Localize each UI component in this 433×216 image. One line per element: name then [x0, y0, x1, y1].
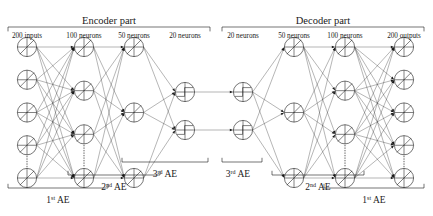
layer-labels-group: 200 inputs100 neurons50 neurons20 neuron… — [12, 32, 421, 40]
connection-edge — [37, 113, 75, 178]
connection-edge — [355, 113, 394, 135]
connection-edge — [94, 47, 125, 112]
part-brackets-group: Encoder partDecoder part — [8, 15, 424, 32]
connection-edge — [94, 91, 124, 113]
part-title-decoder: Decoder part — [296, 15, 351, 26]
bracket-encoder-3rd-ae — [122, 158, 208, 162]
part-bracket-encoder — [8, 27, 210, 31]
connection-edge — [144, 47, 176, 92]
connection-edge — [355, 47, 395, 145]
connection-edge — [144, 92, 176, 178]
connection-edge — [37, 47, 74, 79]
neuron-node — [17, 103, 36, 122]
connection-edge — [355, 146, 394, 178]
connection-edge — [304, 47, 336, 90]
connection-edge — [94, 113, 124, 135]
label-encoder-1st-ae: 1st AE — [46, 195, 69, 205]
neuron-node — [394, 136, 413, 155]
layer-label-R2: 50 neurons — [278, 32, 310, 40]
edge-arrowhead — [281, 109, 284, 112]
connection-edge — [355, 80, 395, 178]
neuron-node — [284, 37, 303, 56]
connection-edge — [253, 47, 285, 92]
connection-edge — [355, 134, 394, 177]
connection-edge — [144, 92, 175, 112]
connection-edge — [253, 47, 285, 130]
connection-edge — [355, 47, 394, 90]
label-encoder-3rd-ae: 3rd AE — [153, 169, 177, 179]
connection-edge — [355, 47, 395, 112]
connection-edge — [304, 135, 336, 178]
edge-arrowhead — [172, 88, 175, 91]
neuron-node — [394, 70, 413, 89]
connection-edge — [94, 113, 125, 178]
edge-arrowhead — [230, 91, 233, 94]
connection-edge — [37, 47, 74, 90]
autoencoder-diagram: Encoder partDecoder part 200 inputs100 n… — [0, 0, 433, 216]
neuron-node — [17, 168, 36, 187]
neuron-node — [17, 136, 36, 155]
connection-edge — [37, 47, 75, 112]
neuron-node — [394, 103, 413, 122]
neuron-node — [335, 125, 354, 144]
diagram-canvas: Encoder partDecoder part 200 inputs100 n… — [0, 0, 433, 216]
neuron-node — [394, 168, 413, 187]
connection-edge — [355, 47, 394, 79]
connection-edge — [355, 47, 395, 134]
connection-edge — [94, 91, 125, 178]
neuron-node — [233, 120, 252, 139]
label-decoder-3rd-ae: 3rd AE — [226, 169, 250, 179]
connection-edge — [355, 113, 395, 178]
connection-edge — [144, 113, 175, 130]
part-bracket-decoder — [222, 27, 424, 31]
layer-label-R1: 20 neurons — [227, 32, 259, 40]
connection-edge — [355, 134, 394, 145]
neuron-node — [124, 168, 143, 187]
neuron-node — [74, 81, 93, 100]
layer-label-L1: 200 inputs — [12, 32, 42, 40]
layer-label-L4: 20 neurons — [169, 32, 201, 40]
label-decoder-2nd-ae: 2nd AE — [305, 182, 330, 192]
neuron-node — [335, 37, 354, 56]
neuron-node — [17, 37, 36, 56]
connection-edge — [253, 130, 285, 178]
connection-edges-group — [37, 46, 395, 180]
layer-label-L2: 100 neurons — [66, 32, 102, 40]
neuron-node — [284, 103, 303, 122]
connection-edge — [304, 47, 336, 112]
connection-edge — [37, 135, 74, 178]
connection-edge — [37, 47, 75, 145]
connection-edge — [37, 91, 75, 145]
neuron-node — [284, 168, 303, 187]
neuron-node — [17, 70, 36, 89]
connection-edge — [94, 47, 125, 90]
connection-edge — [37, 134, 74, 145]
edge-arrowhead — [332, 46, 335, 49]
edge-arrowhead — [332, 177, 335, 180]
neuron-node — [74, 125, 93, 144]
connection-edge — [355, 80, 394, 91]
connection-edge — [37, 145, 74, 177]
edge-arrowhead — [230, 129, 233, 132]
ae-brackets-group: 1st AE2nd AE3rd AE3rd AE2nd AE1st AE — [8, 158, 424, 205]
edge-arrowhead — [332, 87, 335, 90]
part-title-encoder: Encoder part — [82, 15, 136, 26]
neuron-node — [124, 37, 143, 56]
connection-edge — [304, 113, 335, 135]
connection-edge — [253, 92, 285, 178]
neuron-node — [233, 82, 252, 101]
connection-edge — [94, 47, 125, 134]
connection-edge — [144, 47, 176, 130]
neuron-node — [74, 168, 93, 187]
edge-arrowhead — [332, 135, 335, 138]
connection-edge — [304, 91, 335, 113]
connection-edge — [355, 80, 395, 134]
neuron-node — [394, 37, 413, 56]
connection-edge — [355, 91, 394, 113]
connection-edge — [37, 91, 75, 178]
connection-edge — [304, 47, 336, 134]
connection-edge — [37, 47, 75, 134]
connection-edge — [304, 91, 336, 178]
edge-arrowhead — [281, 113, 284, 116]
connection-edge — [37, 80, 75, 178]
